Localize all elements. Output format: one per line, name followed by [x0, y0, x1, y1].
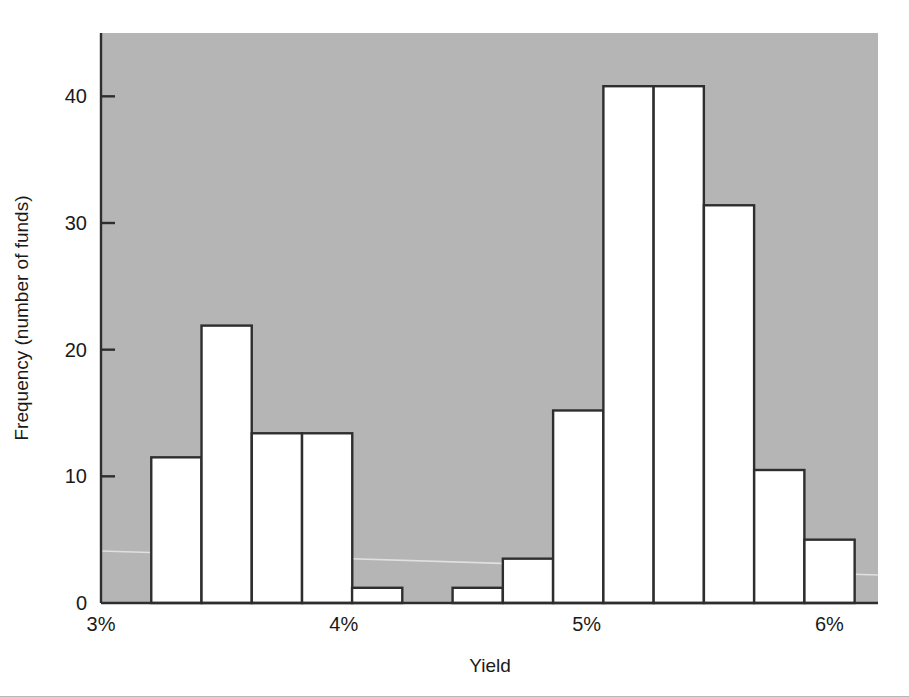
- x-axis-tick-label: 4%: [329, 613, 358, 635]
- histogram-figure: 010203040 3%4%5%6% Frequency (number of …: [0, 0, 909, 697]
- histogram-bar: [804, 540, 854, 603]
- histogram-bar: [302, 433, 352, 603]
- y-axis-title: Frequency (number of funds): [11, 195, 32, 440]
- x-axis-tick-labels: 3%4%5%6%: [87, 613, 845, 635]
- yield-frequency-histogram: 010203040 3%4%5%6% Frequency (number of …: [0, 0, 909, 697]
- x-axis-tick-label: 6%: [815, 613, 844, 635]
- y-axis-tick-label: 0: [76, 592, 87, 614]
- histogram-bar: [252, 433, 302, 603]
- y-axis-tick-label: 40: [65, 85, 87, 107]
- histogram-bar: [202, 326, 252, 603]
- histogram-bar: [503, 559, 553, 603]
- histogram-bar: [654, 86, 704, 603]
- x-axis-tick-label: 3%: [87, 613, 116, 635]
- histogram-bar: [453, 588, 503, 603]
- y-axis-tick-label: 10: [65, 465, 87, 487]
- y-axis-tick-label: 20: [65, 339, 87, 361]
- x-axis-title: Yield: [469, 655, 511, 676]
- y-axis-tick-label: 30: [65, 212, 87, 234]
- histogram-bar: [352, 588, 402, 603]
- x-axis-tick-label: 5%: [572, 613, 601, 635]
- histogram-bar: [151, 457, 201, 603]
- histogram-bar: [704, 205, 754, 603]
- histogram-bar: [603, 86, 653, 603]
- histogram-bar: [553, 410, 603, 603]
- y-axis-tick-labels: 010203040: [65, 85, 87, 614]
- histogram-bar: [754, 470, 804, 603]
